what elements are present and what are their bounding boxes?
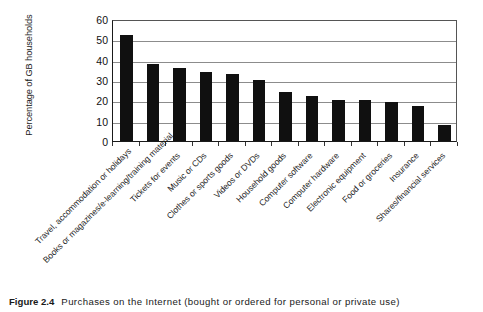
figure-caption-label: Figure 2.4 [9,296,54,307]
figure-caption-text: Purchases on the Internet (bought or ord… [61,296,400,307]
x-axis-tick [457,142,458,146]
x-axis-tick [351,142,352,146]
x-axis-tick [271,142,272,146]
figure-container: Percentage of GB households 010203040506… [0,0,483,312]
y-axis-tick-label: 40 [80,55,108,67]
y-axis-tick-label: 60 [80,14,108,26]
x-axis-tick [112,142,113,146]
x-axis-tick [245,142,246,146]
y-axis-tick-label: 30 [80,75,108,87]
y-axis-tick-labels: 0102030405060 [78,20,108,142]
x-axis-tick [377,142,378,146]
x-axis-tick [139,142,140,146]
bar [332,100,345,141]
y-axis-title: Percentage of GB households [24,0,34,155]
x-axis-tick [218,142,219,146]
bar [359,100,372,141]
bar [200,72,213,141]
x-axis-tick [430,142,431,146]
bar [412,106,425,141]
x-axis-tick [192,142,193,146]
y-axis-tick-label: 50 [80,34,108,46]
figure-caption: Figure 2.4Purchases on the Internet (bou… [9,296,475,308]
plot-area [112,20,457,142]
bar [385,102,398,141]
bar [173,68,186,141]
bars-group [113,21,456,141]
x-axis-tick [404,142,405,146]
x-axis-tick [298,142,299,146]
y-axis-tick-label: 20 [80,95,108,107]
bar [279,92,292,141]
x-axis-tick [324,142,325,146]
bar [253,80,266,141]
y-axis-tick-label: 10 [80,116,108,128]
bar [226,74,239,141]
bar [147,64,160,141]
bar [306,96,319,141]
y-axis-tick-label: 0 [80,136,108,148]
bar [438,125,451,141]
bar [120,35,133,141]
